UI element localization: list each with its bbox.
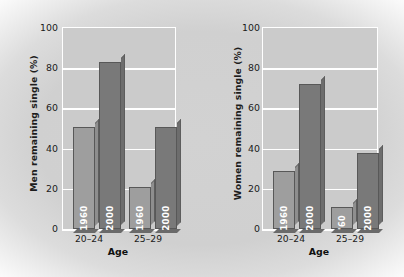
bar-men-2000-20-24: 2000 [99, 62, 121, 229]
y-tick-label: 40 [46, 142, 58, 153]
chart-panel-men: Men remaining single (%) 100 80 60 40 20… [0, 0, 202, 277]
y-tick-label: 80 [46, 62, 58, 73]
y-tick-label: 40 [248, 142, 260, 153]
bar-side [321, 76, 325, 225]
bar-year-label: '60 [338, 215, 347, 230]
x-tick-label: 25–29 [134, 233, 162, 244]
y-axis-ticks-men: 100 80 60 40 20 0 [28, 0, 58, 277]
y-tick-label: 0 [52, 223, 58, 234]
bar-men-2000-25-29: 2000 [155, 127, 177, 230]
bar-women-1960-20-24: 1960 [273, 171, 295, 229]
bar-year-label: 1960 [79, 205, 89, 231]
x-tick-label: 20–24 [75, 233, 103, 244]
bar-face [99, 62, 121, 229]
bar-group-men: 1960 2000 1960 20 [63, 28, 175, 229]
y-tick-label: 100 [242, 22, 260, 33]
y-tick-label: 100 [40, 22, 58, 33]
y-tick-label: 0 [254, 223, 260, 234]
y-tick-label: 20 [248, 182, 260, 193]
x-axis-ticks-men: 20–24 25–29 [62, 233, 174, 247]
bar-year-label: 2000 [105, 205, 115, 231]
y-axis-ticks-women: 100 80 60 40 20 0 [230, 0, 260, 277]
bar-men-1960-25-29: 1960 [129, 187, 151, 229]
bar-year-label: 2000 [363, 205, 373, 231]
bar-year-label: 2000 [161, 205, 171, 231]
plot-area-men: 1960 2000 1960 20 [62, 27, 176, 229]
x-axis-title-men: Age [62, 246, 174, 257]
x-axis-ticks-women: 20–24 25–29 [262, 233, 376, 247]
bar-group-women: 1960 2000 '60 200 [263, 28, 377, 229]
y-tick-label: 80 [248, 62, 260, 73]
x-tick-label: 25–29 [336, 233, 364, 244]
bar-side [379, 145, 383, 225]
y-tick-label: 60 [46, 102, 58, 113]
bar-side [121, 54, 125, 225]
bar-women-1960-25-29: '60 [331, 207, 353, 229]
y-tick-label: 60 [248, 102, 260, 113]
bar-women-2000-20-24: 2000 [299, 84, 321, 229]
bar-side [177, 119, 181, 226]
bar-year-label: 1960 [135, 205, 145, 231]
x-tick-label: 20–24 [277, 233, 305, 244]
x-axis-title-women: Age [262, 246, 376, 257]
bar-year-label: 1960 [279, 205, 289, 231]
figure-canvas: Men remaining single (%) 100 80 60 40 20… [0, 0, 404, 277]
bar-men-1960-20-24: 1960 [73, 127, 95, 230]
y-tick-label: 20 [46, 182, 58, 193]
bar-year-label: 2000 [305, 205, 315, 231]
chart-panel-women: Women remaining single (%) 100 80 60 40 … [202, 0, 404, 277]
plot-area-women: 1960 2000 '60 200 [262, 27, 378, 229]
bar-women-2000-25-29: 2000 [357, 153, 379, 229]
